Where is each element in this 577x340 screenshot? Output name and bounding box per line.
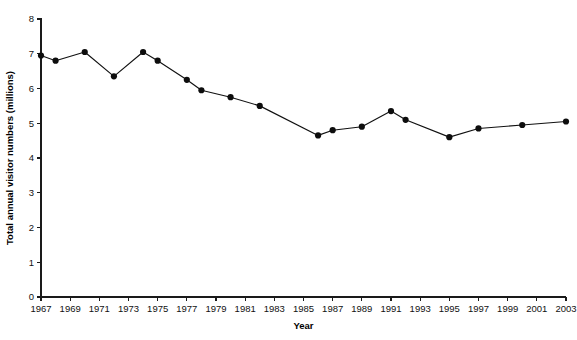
data-point-marker <box>359 124 365 130</box>
data-point-marker <box>388 108 394 114</box>
data-point-marker <box>257 103 263 109</box>
x-axis-tick-label: 1967 <box>30 303 51 314</box>
data-point-marker <box>38 52 44 58</box>
y-axis-tick-label: 4 <box>29 152 34 163</box>
data-point-marker <box>330 127 336 133</box>
x-axis-tick-label: 1991 <box>380 303 401 314</box>
y-axis-title: Total annual visitor numbers (millions) <box>4 71 15 245</box>
visitor-numbers-line-chart: 0123456781967196919711973197519771979198… <box>0 0 577 340</box>
data-point-marker <box>563 118 569 124</box>
y-axis-tick-label: 6 <box>29 83 34 94</box>
series-line <box>41 52 566 137</box>
x-axis-tick-label: 1973 <box>118 303 139 314</box>
data-point-marker <box>198 87 204 93</box>
x-axis-tick-label: 1975 <box>147 303 168 314</box>
x-axis-tick-label: 1997 <box>468 303 489 314</box>
data-point-marker <box>155 58 161 64</box>
x-axis-tick-label: 1987 <box>322 303 343 314</box>
x-axis-tick-label: 1979 <box>205 303 226 314</box>
data-point-marker <box>315 132 321 138</box>
data-point-marker <box>111 73 117 79</box>
x-axis-tick-label: 2001 <box>526 303 547 314</box>
data-point-marker <box>227 94 233 100</box>
data-point-marker <box>140 49 146 55</box>
x-axis-tick-label: 2003 <box>555 303 576 314</box>
x-axis-tick-label: 1995 <box>439 303 460 314</box>
data-point-marker <box>446 134 452 140</box>
y-axis-tick-label: 2 <box>29 222 34 233</box>
x-axis-title: Year <box>293 320 313 331</box>
x-axis-tick-label: 1999 <box>497 303 518 314</box>
data-point-marker <box>519 122 525 128</box>
x-axis-tick-label: 1969 <box>60 303 81 314</box>
x-axis-tick-label: 1971 <box>89 303 110 314</box>
data-point-marker <box>402 117 408 123</box>
x-axis-tick-label: 1981 <box>235 303 256 314</box>
y-axis-tick-label: 5 <box>29 118 34 129</box>
x-axis-tick-label: 1993 <box>410 303 431 314</box>
data-point-marker <box>475 125 481 131</box>
x-axis-tick-label: 1983 <box>264 303 285 314</box>
x-axis-tick-label: 1989 <box>351 303 372 314</box>
y-axis-tick-label: 8 <box>29 13 34 24</box>
data-point-marker <box>184 77 190 83</box>
data-point-marker <box>82 49 88 55</box>
chart-canvas: 0123456781967196919711973197519771979198… <box>0 0 577 340</box>
y-axis-tick-label: 0 <box>29 291 34 302</box>
data-point-marker <box>52 58 58 64</box>
y-axis-tick-label: 7 <box>29 48 34 59</box>
y-axis-tick-label: 1 <box>29 257 34 268</box>
x-axis-tick-label: 1977 <box>176 303 197 314</box>
x-axis-tick-label: 1985 <box>293 303 314 314</box>
y-axis-tick-label: 3 <box>29 187 34 198</box>
